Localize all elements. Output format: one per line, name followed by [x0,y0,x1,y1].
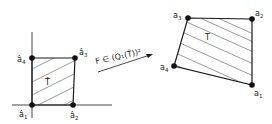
vertex-a1 [249,82,255,88]
label-a2-hat: â2 [70,111,78,121]
vertex-a2 [249,16,255,22]
label-a3-hat: â3 [79,48,88,58]
vertex-a4-hat [29,55,35,61]
bilinear-map-diagram: â4 â3 â1 â2 T̂ F ∈ (Q₁(T̂))² a3 a2 a1 a4… [0,0,272,124]
mapping-label: F ∈ (Q₁(T̂))² [94,46,142,66]
label-a1-hat: â1 [19,110,27,120]
label-T: T [204,33,210,42]
label-a4-hat: â4 [17,55,26,65]
vertex-a3-hat [72,55,78,61]
vertex-a2-hat [70,102,76,108]
label-T-hat: T̂ [44,77,50,87]
label-a3: a3 [173,11,182,21]
label-a2: a2 [255,9,263,19]
vertex-a1-hat [29,102,35,108]
vertex-a3 [185,15,191,21]
label-a4: a4 [160,63,169,73]
vertex-a4 [171,63,177,69]
reference-square [32,58,75,105]
arrow-head-icon [146,54,153,58]
label-a1: a1 [254,89,262,99]
